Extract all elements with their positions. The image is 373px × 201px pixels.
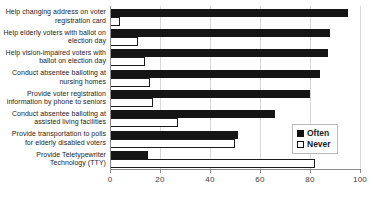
- legend-swatch-never-icon: [297, 141, 304, 148]
- bar-often: [110, 29, 330, 37]
- category-label: Conduct absentee balloting at assisted l…: [2, 110, 106, 127]
- bar-often: [110, 9, 348, 17]
- category-label: Provide transportation to polls for elde…: [2, 130, 106, 147]
- bar-chart: 020406080100 Help changing address on vo…: [0, 0, 373, 201]
- category-label: Conduct absentee balloting at nursing ho…: [2, 69, 106, 86]
- x-axis-tick: [210, 169, 211, 173]
- x-axis-tick-label: 60: [255, 175, 264, 184]
- legend-item-often: Often: [297, 128, 331, 139]
- bar-often: [110, 70, 320, 78]
- x-axis-tick-label: 40: [205, 175, 214, 184]
- bar-never: [110, 98, 153, 107]
- legend-item-never: Never: [297, 139, 331, 150]
- x-axis-tick: [260, 169, 261, 173]
- x-axis-tick-label: 20: [155, 175, 164, 184]
- gridline: [360, 6, 361, 169]
- bar-never: [110, 17, 120, 26]
- x-axis-tick: [110, 169, 111, 173]
- bar-never: [110, 37, 138, 46]
- category-label: Provide Teletypewriter Technology (TTY): [2, 150, 106, 167]
- bar-never: [110, 118, 178, 127]
- bar-often: [110, 151, 148, 159]
- y-axis-line: [110, 6, 111, 170]
- category-label: Help vision-impaired voters with ballot …: [2, 49, 106, 66]
- legend-label-never: Never: [307, 139, 331, 150]
- category-label: Help elderly voters with ballot on elect…: [2, 28, 106, 45]
- x-axis-line: [110, 169, 360, 170]
- bar-never: [110, 139, 235, 148]
- x-axis-tick: [310, 169, 311, 173]
- category-label: Help changing address on voter registrat…: [2, 8, 106, 25]
- x-axis-tick-label: 80: [305, 175, 314, 184]
- x-axis-tick: [160, 169, 161, 173]
- legend-swatch-often-icon: [297, 130, 304, 137]
- bar-often: [110, 131, 238, 139]
- bar-never: [110, 78, 150, 87]
- category-label: Provide voter registration information b…: [2, 89, 106, 106]
- legend-label-often: Often: [307, 128, 329, 139]
- x-axis-tick: [360, 169, 361, 173]
- bar-often: [110, 49, 328, 57]
- bar-often: [110, 90, 310, 98]
- bar-never: [110, 159, 315, 168]
- bar-often: [110, 110, 275, 118]
- x-axis-tick-label: 100: [353, 175, 367, 184]
- legend: Often Never: [292, 124, 338, 154]
- bar-never: [110, 57, 145, 66]
- x-axis-tick-label: 0: [108, 175, 113, 184]
